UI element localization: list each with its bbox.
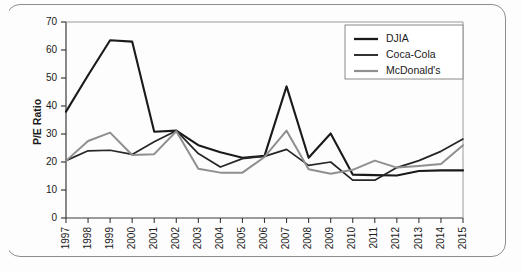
x-tick-label: 2015 bbox=[457, 227, 468, 250]
x-axis-ticks: 1997199819992000200120022003200420052006… bbox=[60, 218, 468, 249]
y-tick-label: 20 bbox=[46, 156, 58, 167]
x-tick-label: 2007 bbox=[280, 227, 291, 250]
chart-legend: DJIACoca-ColaMcDonald's bbox=[345, 25, 463, 79]
x-tick-label: 2012 bbox=[390, 227, 401, 250]
y-tick-label: 10 bbox=[46, 184, 58, 195]
x-tick-label: 1999 bbox=[104, 227, 115, 250]
x-tick-label: 2010 bbox=[346, 227, 357, 250]
x-tick-label: 2000 bbox=[126, 227, 137, 250]
y-axis-ticks: 010203040506070 bbox=[46, 16, 66, 223]
x-tick-label: 1997 bbox=[60, 227, 71, 250]
legend-label-coca-cola: Coca-Cola bbox=[386, 48, 436, 60]
x-tick-label: 2006 bbox=[258, 227, 269, 250]
x-tick-label: 2001 bbox=[148, 227, 159, 250]
x-tick-label: 2013 bbox=[413, 227, 424, 250]
x-tick-label: 2011 bbox=[368, 227, 379, 249]
series-line-mcdonald-s bbox=[66, 131, 463, 174]
x-tick-label: 2008 bbox=[302, 227, 313, 250]
x-tick-label: 1998 bbox=[82, 227, 93, 250]
y-tick-label: 40 bbox=[46, 100, 58, 111]
x-tick-label: 2003 bbox=[192, 227, 203, 250]
x-tick-label: 2005 bbox=[236, 227, 247, 250]
figure-root: 010203040506070 199719981999200020012002… bbox=[0, 0, 522, 271]
x-tick-label: 2004 bbox=[214, 227, 225, 250]
pe-ratio-line-chart: 010203040506070 199719981999200020012002… bbox=[0, 0, 522, 271]
y-tick-label: 60 bbox=[46, 44, 58, 55]
y-tick-label: 50 bbox=[46, 72, 58, 83]
y-tick-label: 0 bbox=[51, 212, 57, 223]
legend-label-djia: DJIA bbox=[386, 32, 409, 44]
legend-label-mcdonald-s: McDonald's bbox=[386, 64, 441, 76]
y-axis-title: P/E Ratio bbox=[31, 99, 43, 145]
y-tick-label: 70 bbox=[46, 16, 58, 27]
x-tick-label: 2014 bbox=[435, 227, 446, 250]
y-tick-label: 30 bbox=[46, 128, 58, 139]
x-tick-label: 2002 bbox=[170, 227, 181, 250]
x-tick-label: 2009 bbox=[324, 227, 335, 250]
